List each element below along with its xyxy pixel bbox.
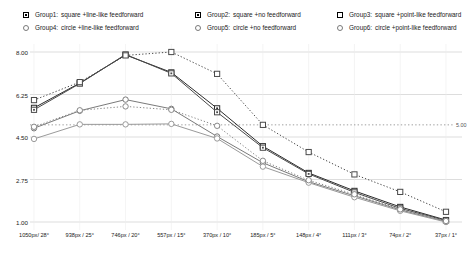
legend-item-desc: circle +point-like feedforward (375, 24, 457, 32)
legend-item-group6[interactable]: Group6: circle +point-like feedforward (336, 22, 446, 34)
legend-item-group5[interactable]: Group5: circle +no feedforward (194, 22, 336, 34)
data-point-group5 (77, 122, 82, 127)
circle-open-marker-icon (194, 24, 203, 33)
y-axis-tick-label: 4.50 (16, 134, 28, 141)
legend-item-desc: square +line-like feedforward (61, 11, 143, 19)
x-axis-tick-label: 746px / 20° (111, 232, 139, 239)
reference-line-label: 5.00 (456, 122, 467, 128)
data-point-group3 (398, 189, 403, 194)
data-point-group3 (31, 97, 36, 102)
data-point-center-dot (262, 147, 264, 149)
plot-area: 8.006.254.502.751.00 1050px/ 28°938px / … (0, 40, 464, 236)
square-dot-marker-icon (194, 11, 203, 20)
y-axis-tick-label: 1.00 (16, 219, 28, 226)
data-point-group6 (31, 124, 36, 129)
legend-item-name: Group5: (207, 24, 230, 32)
circle-open-marker-icon (22, 24, 31, 33)
legend-item-name: Group2: (207, 11, 230, 19)
legend-item-group3[interactable]: Group3: square +point-like feedforward (336, 9, 446, 21)
data-point-center-dot (170, 72, 172, 74)
y-axis-tick-labels: 8.006.254.502.751.00 (0, 40, 30, 236)
legend-item-group2[interactable]: Group2: square +no feedforward (194, 9, 336, 21)
data-point-center-dot (308, 173, 310, 175)
data-point-group5 (214, 136, 219, 141)
x-axis-tick-label: 370px / 10° (203, 232, 231, 239)
legend-item-name: Group4: (35, 24, 58, 32)
data-point-group6 (214, 123, 219, 128)
data-point-group6 (77, 108, 82, 113)
data-point-group3 (352, 172, 357, 177)
data-point-group3 (123, 53, 128, 58)
legend-item-group4[interactable]: Group4: circle +line-like feedforward (22, 22, 194, 34)
x-axis-tick-labels: 1050px/ 28°938px / 25°746px / 20°557px /… (0, 230, 464, 246)
series-line-group5 (34, 124, 446, 222)
x-axis-tick-label: 111px / 3° (342, 232, 366, 239)
square-open-marker-icon (336, 11, 345, 20)
data-point-group6 (169, 107, 174, 112)
y-axis-tick-label: 2.75 (16, 176, 28, 183)
data-point-group6 (398, 207, 403, 212)
y-axis-tick-label: 8.00 (16, 49, 28, 56)
data-point-group6 (260, 158, 265, 163)
x-axis-tick-label: 148px / 4° (296, 232, 321, 239)
y-axis-tick-label: 6.25 (16, 91, 28, 98)
legend-item-desc: circle +line-like feedforward (61, 24, 139, 32)
legend-item-group1[interactable]: Group1: square +line-like feedforward (22, 9, 194, 21)
series-line-group3 (34, 52, 446, 212)
data-point-group3 (169, 49, 174, 54)
plot-canvas (0, 40, 464, 236)
series-line-group2 (34, 54, 446, 220)
legend-item-desc: circle +no feedforward (233, 24, 296, 32)
legend-item-name: Group3: (349, 11, 372, 19)
data-point-group3 (443, 209, 448, 214)
data-point-group5 (260, 164, 265, 169)
series-line-group1 (34, 55, 446, 220)
data-point-center-dot (216, 111, 218, 113)
data-point-group4 (123, 97, 128, 102)
square-dot-marker-icon (22, 11, 31, 20)
legend-item-desc: square +no feedforward (233, 11, 301, 19)
data-point-group3 (260, 122, 265, 127)
x-axis-tick-label: 938px / 25° (66, 232, 94, 239)
data-point-group3 (215, 71, 220, 76)
data-point-group6 (352, 192, 357, 197)
data-point-group6 (306, 178, 311, 183)
data-point-group3 (306, 149, 311, 154)
data-point-group3 (77, 80, 82, 85)
series-line-group6 (34, 106, 446, 221)
x-axis-tick-label: 1050px/ 28° (19, 232, 49, 239)
data-point-group5 (123, 122, 128, 127)
legend-row-2: Group4: circle +line-like feedforward Gr… (22, 22, 446, 34)
data-point-group5 (169, 121, 174, 126)
x-axis-tick-label: 185px / 5° (250, 232, 275, 239)
legend-item-name: Group6: (349, 24, 372, 32)
data-point-group5 (31, 136, 36, 141)
circle-open-marker-icon (336, 24, 345, 33)
legend-item-desc: square +point-like feedforward (375, 11, 461, 19)
data-point-group6 (123, 104, 128, 109)
legend-item-name: Group1: (35, 11, 58, 19)
legend-row-1: Group1: square +line-like feedforward Gr… (22, 9, 446, 21)
data-point-center-dot (216, 107, 218, 109)
x-axis-tick-label: 557px / 15° (157, 232, 185, 239)
x-axis-tick-label: 37px / 1° (435, 232, 457, 239)
data-point-group6 (443, 218, 448, 223)
x-axis-tick-label: 74px / 2° (389, 232, 411, 239)
data-point-center-dot (33, 109, 35, 111)
chart-legend: Group1: square +line-like feedforward Gr… (22, 8, 446, 36)
